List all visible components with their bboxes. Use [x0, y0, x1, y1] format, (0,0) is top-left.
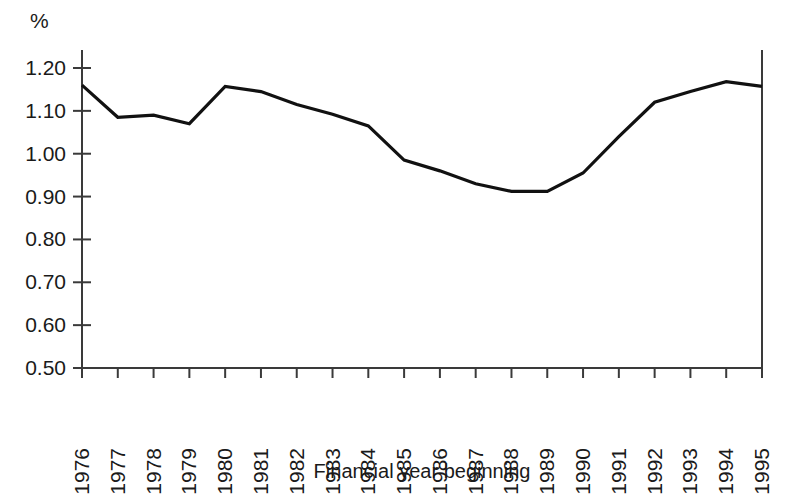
x-axis-tick-label: 1995	[750, 448, 773, 495]
y-axis-tick-label: 0.70	[25, 270, 66, 293]
x-axis-tick-label: 1977	[106, 448, 129, 495]
x-axis-tick-label: 1979	[177, 448, 200, 495]
x-axis-tick-label: 1993	[678, 448, 701, 495]
y-axis-tick-label: 0.60	[25, 313, 66, 336]
y-axis-tick-label: 0.90	[25, 185, 66, 208]
x-axis-tick-label: 1981	[249, 448, 272, 495]
x-axis-tick-label: 1980	[213, 448, 236, 495]
y-axis-tick-label: 1.20	[25, 56, 66, 79]
x-axis-tick-label: 1994	[714, 448, 737, 495]
y-axis-tick-label: 1.00	[25, 142, 66, 165]
x-axis-tick-label: 1976	[70, 448, 93, 495]
data-series-line	[82, 82, 762, 192]
chart-container: % 0.500.600.700.800.901.001.101.20 19761…	[0, 0, 789, 496]
x-axis-tick-label: 1990	[571, 448, 594, 495]
x-axis-tick-label: 1989	[535, 448, 558, 495]
y-axis-tick-label: 0.50	[25, 356, 66, 379]
line-chart: % 0.500.600.700.800.901.001.101.20 19761…	[0, 0, 789, 496]
x-axis-tick-label: 1982	[285, 448, 308, 495]
y-axis-tick-label: 1.10	[25, 99, 66, 122]
x-axis-tick-label: 1992	[643, 448, 666, 495]
x-axis-tick-label: 1978	[142, 448, 165, 495]
x-axis-title: Financial year beginning	[314, 460, 531, 482]
x-axis-tick-label: 1991	[607, 448, 630, 495]
y-axis-unit-label: %	[30, 9, 49, 32]
y-axis-tick-label: 0.80	[25, 227, 66, 250]
